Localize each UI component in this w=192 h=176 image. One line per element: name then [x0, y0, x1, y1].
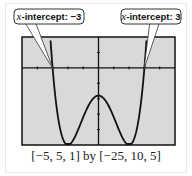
callout-left-label: x-intercept: −3 [16, 10, 82, 22]
window-caption: [−5, 5, 1] by [−25, 10, 5] [0, 148, 192, 164]
callout-right-label: x-intercept: 3 [120, 10, 180, 22]
